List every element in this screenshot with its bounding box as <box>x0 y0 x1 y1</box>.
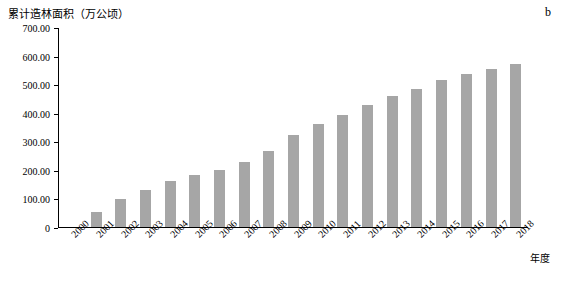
bar <box>337 115 348 227</box>
x-axis-tick: 2017 <box>479 230 504 276</box>
x-axis-tick: 2002 <box>108 230 133 276</box>
bar <box>288 135 299 227</box>
y-axis-tick-mark <box>54 114 58 115</box>
y-axis-tick-mark <box>54 199 58 200</box>
bar <box>189 175 200 227</box>
x-axis-tick: 2010 <box>306 230 331 276</box>
x-axis-tick: 2013 <box>380 230 405 276</box>
y-axis-tick-mark <box>54 228 58 229</box>
bar-slot <box>84 28 109 227</box>
x-axis-tick: 2007 <box>232 230 257 276</box>
x-axis-tick: 2014 <box>405 230 430 276</box>
bar <box>510 64 521 227</box>
bar <box>387 96 398 227</box>
bar-slot <box>133 28 158 227</box>
y-axis-tick-label: 0 <box>6 223 50 234</box>
bar-slot <box>331 28 356 227</box>
x-axis-ticks: 2000200120022003200420052006200720082009… <box>59 230 528 276</box>
y-axis-tick-label: 600.00 <box>6 51 50 62</box>
x-axis-tick: 2005 <box>182 230 207 276</box>
bar-slot <box>306 28 331 227</box>
y-axis-tick-mark <box>54 171 58 172</box>
plot-area: 700.00600.00500.00400.00300.00200.00100.… <box>58 28 528 228</box>
x-axis-title: 年度 <box>530 250 550 265</box>
y-axis-tick-mark <box>54 57 58 58</box>
x-axis-tick: 2004 <box>158 230 183 276</box>
x-axis-tick: 2012 <box>355 230 380 276</box>
bar-slot <box>429 28 454 227</box>
y-axis-title: 累计造林面积（万公顷） <box>8 5 129 21</box>
bar-slot <box>158 28 183 227</box>
y-axis-tick-label: 400.00 <box>6 108 50 119</box>
bar-slot <box>59 28 84 227</box>
panel-label: b <box>545 5 551 20</box>
bar-slot <box>405 28 430 227</box>
bar-slot <box>182 28 207 227</box>
bar-slot <box>380 28 405 227</box>
bar <box>140 190 151 227</box>
bar-slot <box>355 28 380 227</box>
bar-slot <box>479 28 504 227</box>
bar-slot <box>503 28 528 227</box>
x-axis-tick: 2016 <box>454 230 479 276</box>
bar-slot <box>454 28 479 227</box>
y-axis-tick-label: 300.00 <box>6 137 50 148</box>
bar <box>362 105 373 227</box>
y-axis-tick-mark <box>54 142 58 143</box>
bar-slot <box>232 28 257 227</box>
bar <box>263 151 274 227</box>
x-axis-tick: 2003 <box>133 230 158 276</box>
bar-slot <box>281 28 306 227</box>
bar-slot <box>108 28 133 227</box>
x-axis-tick: 2015 <box>429 230 454 276</box>
y-axis-tick-label: 100.00 <box>6 194 50 205</box>
bar <box>486 69 497 227</box>
y-axis-tick-mark <box>54 85 58 86</box>
x-axis-tick: 2001 <box>84 230 109 276</box>
bar <box>115 199 126 227</box>
y-axis-tick-label: 700.00 <box>6 23 50 34</box>
bar <box>239 162 250 227</box>
y-axis-tick-label: 500.00 <box>6 80 50 91</box>
y-axis-tick-label: 200.00 <box>6 165 50 176</box>
bar-slot <box>207 28 232 227</box>
bar <box>165 181 176 227</box>
x-axis-tick: 2009 <box>281 230 306 276</box>
y-axis-tick-mark <box>54 28 58 29</box>
bar <box>313 124 324 227</box>
bar <box>411 89 422 227</box>
x-axis-tick: 2006 <box>207 230 232 276</box>
bar-slot <box>257 28 282 227</box>
bar-series <box>59 28 528 227</box>
bar-chart: 累计造林面积（万公顷） b 700.00600.00500.00400.0030… <box>0 0 567 284</box>
bar <box>461 74 472 227</box>
x-axis-tick: 2018 <box>503 230 528 276</box>
x-axis-tick: 2011 <box>331 230 356 276</box>
bar <box>436 80 447 227</box>
x-axis-tick: 2000 <box>59 230 84 276</box>
bar <box>214 170 225 227</box>
x-axis-tick: 2008 <box>257 230 282 276</box>
